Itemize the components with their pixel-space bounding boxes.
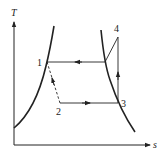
point-2-label: 2 <box>56 106 61 117</box>
point-3-label: 3 <box>121 98 126 109</box>
point-4-label: 4 <box>114 23 119 34</box>
axes: T s <box>11 7 157 150</box>
s-axis-label: s <box>153 139 157 150</box>
saturation-dome <box>14 26 135 132</box>
point-1-label: 1 <box>37 57 42 68</box>
throttling-arrow <box>52 78 54 85</box>
t-s-diagram: T s 1 2 3 4 <box>0 0 165 156</box>
t-axis-label: T <box>11 7 18 18</box>
saturated-liquid-curve <box>14 26 54 128</box>
desuperheating-line <box>105 37 118 62</box>
